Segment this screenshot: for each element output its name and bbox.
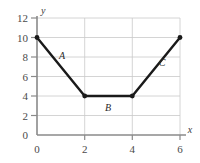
chart-figure: 12 10 8 6 4 2 0 0 2 4 6 y x A B C [0, 0, 200, 163]
xtick-label-6: 6 [177, 143, 183, 155]
xtick-label-4: 4 [130, 143, 136, 155]
ytick-label-8: 8 [23, 51, 29, 63]
ytick-label-2: 2 [23, 110, 29, 122]
xtick-label-2: 2 [82, 143, 88, 155]
data-point-2-4 [82, 94, 87, 99]
ytick-label-10: 10 [17, 32, 29, 44]
data-point-6-10 [178, 35, 183, 40]
x-axis-label: x [187, 124, 193, 135]
segment-label-c: C [159, 57, 166, 68]
chart-plot-area: 12 10 8 6 4 2 0 0 2 4 6 y x A B C [0, 0, 200, 163]
data-point-0-10 [35, 35, 40, 40]
ytick-label-4: 4 [23, 90, 29, 102]
ytick-label-12: 12 [17, 12, 28, 24]
data-point-4-4 [130, 94, 135, 99]
segment-label-a: A [58, 50, 66, 61]
ytick-label-0: 0 [23, 129, 29, 141]
segment-label-b: B [105, 102, 111, 113]
ytick-label-6: 6 [23, 71, 29, 83]
y-axis-label: y [40, 5, 46, 16]
chart-background [0, 0, 200, 163]
xtick-label-0: 0 [34, 143, 40, 155]
